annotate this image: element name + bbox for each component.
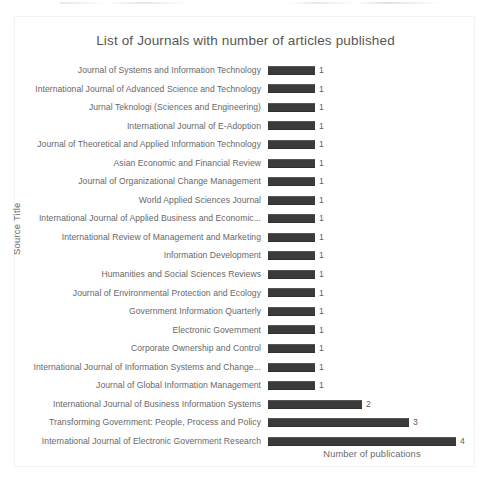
category-label: Journal of Theoretical and Applied Infor… xyxy=(15,140,268,149)
bar-wrapper: 1 xyxy=(268,80,476,99)
bar-value-label: 1 xyxy=(319,122,324,131)
bar-value-label: 1 xyxy=(319,233,324,242)
bar-value-label: 4 xyxy=(460,437,465,446)
bar-row: International Review of Management and M… xyxy=(15,228,476,247)
category-label: Asian Economic and Financial Review xyxy=(15,159,268,168)
bar[interactable] xyxy=(268,270,315,279)
bar-wrapper: 4 xyxy=(268,432,476,451)
bar-row: Asian Economic and Financial Review1 xyxy=(15,154,476,173)
bar-row: Journal of Global Information Management… xyxy=(15,376,476,395)
bar[interactable] xyxy=(268,437,456,446)
bar[interactable] xyxy=(268,103,315,112)
bar-wrapper: 1 xyxy=(268,191,476,210)
bar-row: International Journal of Applied Busines… xyxy=(15,209,476,228)
bar-wrapper: 1 xyxy=(268,117,476,136)
bar-wrapper: 1 xyxy=(268,265,476,284)
bar-value-label: 1 xyxy=(319,140,324,149)
bar-wrapper: 1 xyxy=(268,376,476,395)
category-label: International Journal of Advanced Scienc… xyxy=(15,85,268,94)
bar-value-label: 1 xyxy=(319,103,324,112)
bar[interactable] xyxy=(268,214,315,223)
bar[interactable] xyxy=(268,196,315,205)
category-label: International Journal of Information Sys… xyxy=(15,363,268,372)
x-axis-title: Number of publications xyxy=(268,449,476,459)
category-label: Humanities and Social Sciences Reviews xyxy=(15,270,268,279)
bar-row: International Journal of Information Sys… xyxy=(15,358,476,377)
bar[interactable] xyxy=(268,381,315,390)
category-label: Transforming Government: People, Process… xyxy=(15,418,268,427)
bar-value-label: 1 xyxy=(319,307,324,316)
bar-row: Corporate Ownership and Control1 xyxy=(15,339,476,358)
bar-wrapper: 1 xyxy=(268,61,476,80)
bar[interactable] xyxy=(268,233,315,242)
category-label: Government Information Quarterly xyxy=(15,307,268,316)
bar-row: International Journal of Advanced Scienc… xyxy=(15,80,476,99)
bar-wrapper: 3 xyxy=(268,413,476,432)
bar-wrapper: 1 xyxy=(268,358,476,377)
bar-value-label: 1 xyxy=(319,344,324,353)
category-label: Journal of Organizational Change Managem… xyxy=(15,177,268,186)
bar-wrapper: 1 xyxy=(268,339,476,358)
bar-wrapper: 1 xyxy=(268,172,476,191)
bar[interactable] xyxy=(268,344,315,353)
bar-row: Information Development1 xyxy=(15,247,476,266)
chart-container: List of Journals with number of articles… xyxy=(14,16,475,467)
bar-value-label: 1 xyxy=(319,85,324,94)
bar-wrapper: 2 xyxy=(268,395,476,414)
scan-artifact xyxy=(0,0,497,14)
bar-value-label: 1 xyxy=(319,214,324,223)
bar-wrapper: 1 xyxy=(268,302,476,321)
bar-wrapper: 1 xyxy=(268,154,476,173)
category-label: Journal of Global Information Management xyxy=(15,381,268,390)
bar[interactable] xyxy=(268,363,315,372)
bar[interactable] xyxy=(268,251,315,260)
bar-value-label: 1 xyxy=(319,196,324,205)
bar-wrapper: 1 xyxy=(268,228,476,247)
category-label: International Review of Management and M… xyxy=(15,233,268,242)
category-label: International Journal of E-Adoption xyxy=(15,122,268,131)
bar-wrapper: 1 xyxy=(268,135,476,154)
bar-row: International Journal of Business Inform… xyxy=(15,395,476,414)
bar-value-label: 1 xyxy=(319,159,324,168)
bar-row: Journal of Systems and Information Techn… xyxy=(15,61,476,80)
bar[interactable] xyxy=(268,177,315,186)
bar[interactable] xyxy=(268,400,362,409)
bar-row: Humanities and Social Sciences Reviews1 xyxy=(15,265,476,284)
bar[interactable] xyxy=(268,307,315,316)
bar[interactable] xyxy=(268,84,315,93)
bar-value-label: 1 xyxy=(319,326,324,335)
bar[interactable] xyxy=(268,288,315,297)
plot-area: Journal of Systems and Information Techn… xyxy=(15,61,476,443)
bar[interactable] xyxy=(268,159,315,168)
bar-wrapper: 1 xyxy=(268,284,476,303)
bar-value-label: 1 xyxy=(319,289,324,298)
category-label: Information Development xyxy=(15,251,268,260)
bar-value-label: 1 xyxy=(319,251,324,260)
bar-row: Transforming Government: People, Process… xyxy=(15,413,476,432)
bar-row: Journal of Theoretical and Applied Infor… xyxy=(15,135,476,154)
bar-value-label: 1 xyxy=(319,177,324,186)
bar[interactable] xyxy=(268,66,315,75)
bar-row: Government Information Quarterly1 xyxy=(15,302,476,321)
bar-value-label: 2 xyxy=(366,400,371,409)
bar-value-label: 1 xyxy=(319,66,324,75)
category-label: Journal of Systems and Information Techn… xyxy=(15,66,268,75)
chart-title: List of Journals with number of articles… xyxy=(15,33,476,48)
bar-row: Electronic Government1 xyxy=(15,321,476,340)
bar-wrapper: 1 xyxy=(268,209,476,228)
bar-value-label: 3 xyxy=(413,418,418,427)
category-label: International Journal of Electronic Gove… xyxy=(15,437,268,446)
bar[interactable] xyxy=(268,121,315,130)
category-label: Electronic Government xyxy=(15,326,268,335)
bar-value-label: 1 xyxy=(319,381,324,390)
bar[interactable] xyxy=(268,418,409,427)
category-label: International Journal of Applied Busines… xyxy=(15,214,268,223)
category-label: International Journal of Business Inform… xyxy=(15,400,268,409)
bar[interactable] xyxy=(268,140,315,149)
bar[interactable] xyxy=(268,325,315,334)
bar-value-label: 1 xyxy=(319,270,324,279)
category-label: Jurnal Teknologi (Sciences and Engineeri… xyxy=(15,103,268,112)
bar-row: International Journal of E-Adoption1 xyxy=(15,117,476,136)
bar-row: Jurnal Teknologi (Sciences and Engineeri… xyxy=(15,98,476,117)
bar-wrapper: 1 xyxy=(268,321,476,340)
